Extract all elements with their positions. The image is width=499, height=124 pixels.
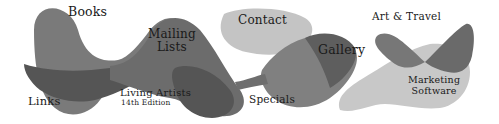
nav-link-marketing-line1: Marketing <box>408 74 460 85</box>
nav-link-marketing-software[interactable]: Marketing Software <box>408 74 460 96</box>
nav-link-living-artists[interactable]: Living Artists 14th Edition <box>120 88 191 107</box>
nav-link-mailing-line2: Lists <box>148 41 196 54</box>
nav-link-art-travel[interactable]: Art & Travel <box>372 11 441 22</box>
nav-link-mailing-lists[interactable]: Mailing Lists <box>148 28 196 54</box>
nav-link-gallery[interactable]: Gallery <box>318 44 365 57</box>
blob-thin-link <box>235 74 268 90</box>
nav-link-living-artists-edition: 14th Edition <box>120 99 191 107</box>
nav-link-links[interactable]: Links <box>28 96 61 108</box>
nav-link-books[interactable]: Books <box>68 6 107 19</box>
nav-link-living-artists-title: Living Artists <box>120 88 191 98</box>
nav-link-specials[interactable]: Specials <box>249 94 295 105</box>
nav-link-marketing-line2: Software <box>408 85 460 96</box>
nav-banner: Books Mailing Lists Contact Art & Travel… <box>0 0 499 124</box>
nav-link-contact[interactable]: Contact <box>238 14 287 26</box>
